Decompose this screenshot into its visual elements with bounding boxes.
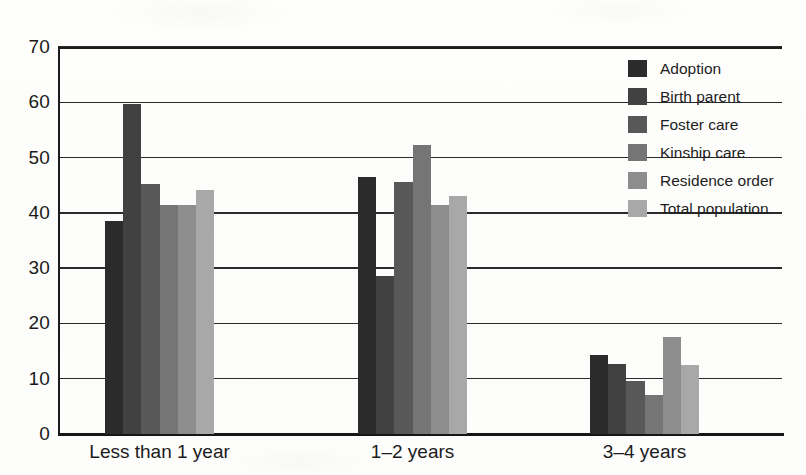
y-tick: 10 bbox=[0, 369, 50, 388]
legend-item-label: Kinship care bbox=[660, 144, 745, 161]
legend-item: Foster care bbox=[628, 112, 788, 137]
y-tick-label: 0 bbox=[6, 424, 50, 443]
y-tick: 0 bbox=[0, 424, 50, 443]
legend-item: Birth parent bbox=[628, 84, 788, 109]
y-tick: 20 bbox=[0, 313, 50, 332]
x-axis-label: Less than 1 year bbox=[50, 441, 270, 463]
legend-item: Residence order bbox=[628, 168, 788, 193]
bar-chart: 706050403020100 Less than 1 year1–2 year… bbox=[0, 0, 806, 475]
x-axis-baseline bbox=[58, 433, 784, 436]
y-tick-label: 40 bbox=[6, 203, 50, 222]
x-axis-label: 3–4 years bbox=[535, 441, 755, 463]
y-tick: 30 bbox=[0, 258, 50, 277]
legend-item: Kinship care bbox=[628, 140, 788, 165]
y-tick-label: 50 bbox=[6, 148, 50, 167]
legend-swatch-icon bbox=[628, 88, 647, 105]
legend-item-label: Birth parent bbox=[660, 88, 740, 105]
legend-item-label: Foster care bbox=[660, 116, 738, 133]
legend-item: Total population bbox=[628, 196, 788, 221]
legend-swatch-icon bbox=[628, 60, 647, 77]
legend-item: Adoption bbox=[628, 56, 788, 81]
legend-swatch-icon bbox=[628, 116, 647, 133]
legend-swatch-icon bbox=[628, 200, 647, 217]
legend-item-label: Total population bbox=[660, 200, 769, 217]
y-tick-label: 20 bbox=[6, 313, 50, 332]
y-tick: 70 bbox=[0, 37, 50, 56]
y-tick: 50 bbox=[0, 148, 50, 167]
y-tick: 60 bbox=[0, 92, 50, 111]
legend-swatch-icon bbox=[628, 172, 647, 189]
y-tick-label: 70 bbox=[6, 37, 50, 56]
chart-legend: AdoptionBirth parentFoster careKinship c… bbox=[628, 56, 788, 224]
y-tick-label: 60 bbox=[6, 92, 50, 111]
legend-swatch-icon bbox=[628, 144, 647, 161]
x-axis-label: 1–2 years bbox=[303, 441, 523, 463]
legend-item-label: Residence order bbox=[660, 172, 774, 189]
y-tick: 40 bbox=[0, 203, 50, 222]
y-tick-label: 30 bbox=[6, 258, 50, 277]
legend-item-label: Adoption bbox=[660, 60, 721, 77]
y-tick-label: 10 bbox=[6, 369, 50, 388]
